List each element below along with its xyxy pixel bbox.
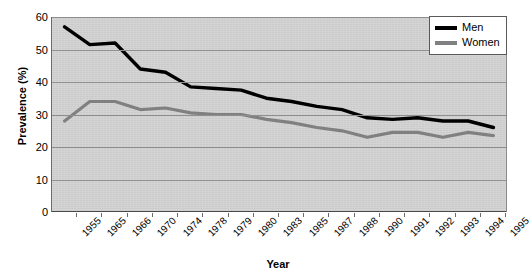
gridline-40	[52, 82, 506, 83]
x-tickmark-1987	[328, 213, 329, 217]
x-tickmark-1978	[202, 213, 203, 217]
x-tickmark-1980	[253, 213, 254, 217]
x-tickmark-1983	[278, 213, 279, 217]
y-axis-tick-labels: 0102030405060	[18, 0, 48, 279]
gridline-20	[52, 147, 506, 148]
x-tickmark-1993	[455, 213, 456, 217]
x-tickmark-1995	[505, 213, 506, 217]
x-tickmark-1991	[404, 213, 405, 217]
y-tick-60: 60	[22, 12, 48, 23]
legend-swatch-men-icon	[435, 26, 457, 30]
chart-legend: Men Women	[429, 16, 507, 55]
x-tickmark-1985	[303, 213, 304, 217]
x-tick-1965: 1965	[104, 215, 128, 239]
x-tickmark-1992	[429, 213, 430, 217]
x-tick-1966: 1966	[130, 215, 154, 239]
x-tickmark-1994	[480, 213, 481, 217]
x-tick-1994: 1994	[483, 215, 507, 239]
x-tick-1974: 1974	[180, 215, 204, 239]
legend-item-men: Men	[435, 20, 500, 35]
y-tick-0: 0	[22, 207, 48, 218]
x-tickmark-1979	[228, 213, 229, 217]
x-tickmark-1955	[76, 213, 77, 217]
legend-item-women: Women	[435, 35, 500, 50]
x-tick-1987: 1987	[331, 215, 355, 239]
x-tick-1991: 1991	[407, 215, 431, 239]
x-tickmark-1966	[127, 213, 128, 217]
legend-label-men: Men	[462, 22, 483, 33]
x-tick-1980: 1980	[256, 215, 280, 239]
x-axis-tick-labels: 1955196519661970197419781979198019831985…	[51, 213, 505, 259]
gridline-10	[52, 180, 506, 181]
x-tick-1985: 1985	[306, 215, 330, 239]
x-tick-1995: 1995	[508, 215, 531, 239]
y-tick-40: 40	[22, 77, 48, 88]
legend-label-women: Women	[462, 37, 500, 48]
x-tick-1988: 1988	[357, 215, 381, 239]
gridline-30	[52, 115, 506, 116]
x-axis-title: Year	[51, 258, 505, 270]
x-tickmark-1970	[152, 213, 153, 217]
x-tick-1978: 1978	[205, 215, 229, 239]
y-tick-20: 20	[22, 142, 48, 153]
x-tick-1993: 1993	[457, 215, 481, 239]
x-tick-1992: 1992	[432, 215, 456, 239]
x-tickmark-1974	[177, 213, 178, 217]
legend-swatch-women-icon	[435, 41, 457, 45]
x-tickmark-1965	[101, 213, 102, 217]
x-tick-1970: 1970	[155, 215, 179, 239]
x-tick-1983: 1983	[281, 215, 305, 239]
x-tick-1955: 1955	[79, 215, 103, 239]
x-tick-1979: 1979	[230, 215, 254, 239]
x-tickmark-1990	[379, 213, 380, 217]
x-tick-1990: 1990	[382, 215, 406, 239]
y-tick-10: 10	[22, 174, 48, 185]
y-tick-30: 30	[22, 109, 48, 120]
x-tickmark-1988	[354, 213, 355, 217]
y-tick-50: 50	[22, 44, 48, 55]
gridline-0	[52, 211, 506, 212]
